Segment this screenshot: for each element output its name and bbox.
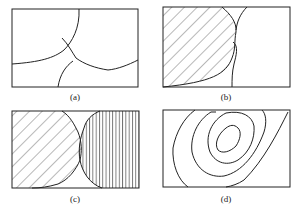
panel-a-curve-left (12, 9, 79, 64)
panel-d (163, 110, 290, 187)
panel-d-label: (d) (206, 194, 246, 204)
panel-d-contour-middle (192, 110, 266, 176)
panel-a-curve-right (62, 38, 138, 70)
panel-d-contour-outer-right (226, 112, 288, 187)
panel-d-contour-innermost (216, 125, 240, 152)
panel-d-contour-inner (208, 112, 254, 163)
panel-a-label: (a) (55, 92, 95, 102)
panel-c-diagonal-hatch (12, 111, 81, 188)
panel-b-label: (b) (206, 92, 246, 102)
panel-c (12, 111, 139, 188)
panel-b-hatched-region (163, 7, 236, 87)
figure (0, 0, 298, 215)
panel-b-curve-top (236, 7, 247, 30)
panel-a-curve-bottom (58, 61, 73, 87)
panel-b (163, 7, 290, 87)
panel-a (12, 9, 138, 87)
panel-c-label: (c) (55, 194, 95, 204)
panel-a-frame (12, 9, 138, 87)
panel-c-vertical-hatch (79, 111, 139, 188)
